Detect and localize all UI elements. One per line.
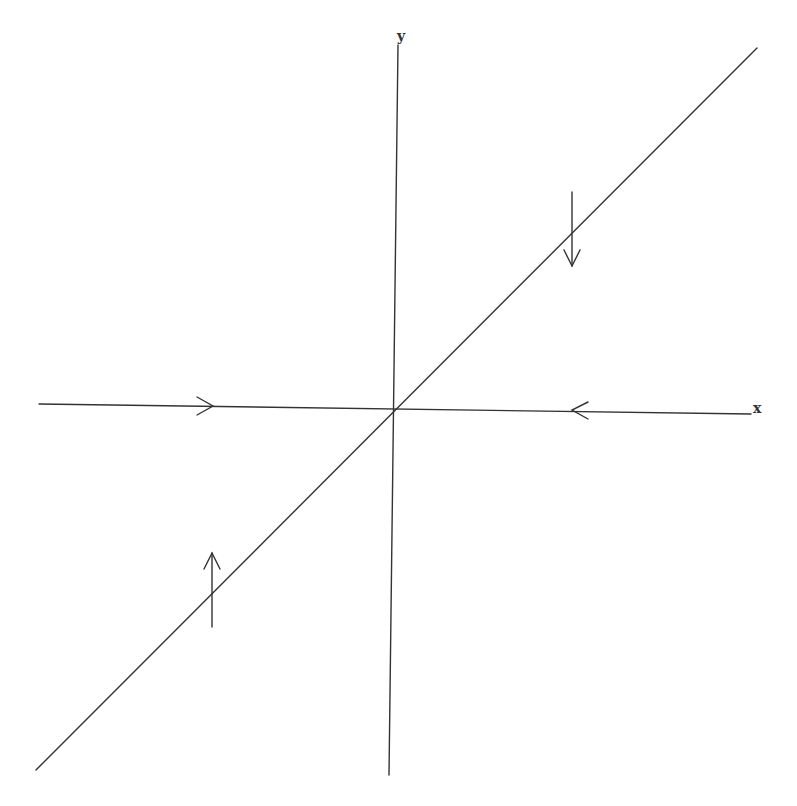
arrow-up-icon bbox=[204, 553, 220, 627]
phase-diagram: y x bbox=[0, 0, 797, 806]
arrow-down-icon bbox=[564, 192, 580, 266]
y-axis bbox=[389, 45, 398, 775]
arrow-left-icon bbox=[572, 402, 588, 419]
y-axis-label: y bbox=[396, 28, 406, 44]
x-axis-label: x bbox=[753, 400, 762, 416]
x-axis bbox=[39, 404, 751, 414]
